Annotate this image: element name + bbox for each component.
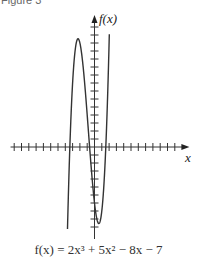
- y-axis-label: f(x): [99, 11, 117, 27]
- function-caption: f(x) = 2x³ + 5x² − 8x − 7: [0, 242, 197, 258]
- function-curve: [67, 34, 109, 229]
- y-axis-arrow-icon: [92, 15, 98, 23]
- function-graph: [0, 0, 197, 262]
- x-axis-label: x: [185, 150, 191, 166]
